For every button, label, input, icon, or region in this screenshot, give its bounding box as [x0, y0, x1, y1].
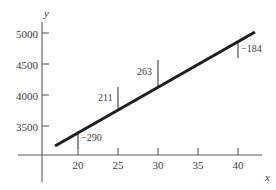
x-tick-label-20: 20	[63, 160, 93, 171]
y-axis-label: y	[44, 8, 49, 19]
x-tick-label-25: 25	[103, 160, 133, 171]
residual-label-x25: 211	[98, 93, 113, 103]
x-axis-label: x	[265, 172, 270, 183]
residual-label-x30: 263	[137, 67, 152, 77]
x-tick-label-35: 35	[183, 160, 213, 171]
x-tick-label-30: 30	[143, 160, 173, 171]
residual-label-x40: −184	[241, 44, 262, 54]
y-tick-label-4500: 4500	[2, 60, 38, 71]
y-tick-label-5000: 5000	[2, 29, 38, 40]
x-tick-label-40: 40	[223, 160, 253, 171]
chart-figure: 5000 4500 4000 3500 20 25 30 35 40 y x −…	[0, 0, 276, 190]
residual-label-x20: −290	[81, 133, 102, 143]
regression-line	[55, 32, 255, 146]
y-tick-label-4000: 4000	[2, 91, 38, 102]
y-tick-label-3500: 3500	[2, 122, 38, 133]
